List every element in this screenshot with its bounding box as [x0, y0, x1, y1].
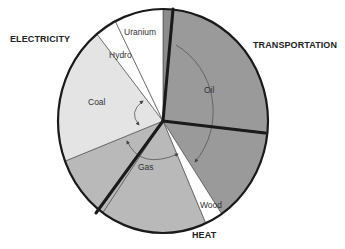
pie-slice-oil-transportation — [163, 10, 268, 133]
label-oil: Oil — [204, 85, 215, 95]
sector-label-transportation: TRANSPORTATION — [253, 40, 337, 50]
label-wood: Wood — [200, 200, 222, 210]
sector-label-electricity: ELECTRICITY — [10, 34, 70, 44]
label-coal: Coal — [88, 97, 106, 107]
label-uranium: Uranium — [124, 27, 156, 37]
label-hydro: Hydro — [109, 50, 132, 60]
sector-label-heat: HEAT — [192, 230, 216, 240]
label-gas: Gas — [138, 162, 154, 172]
